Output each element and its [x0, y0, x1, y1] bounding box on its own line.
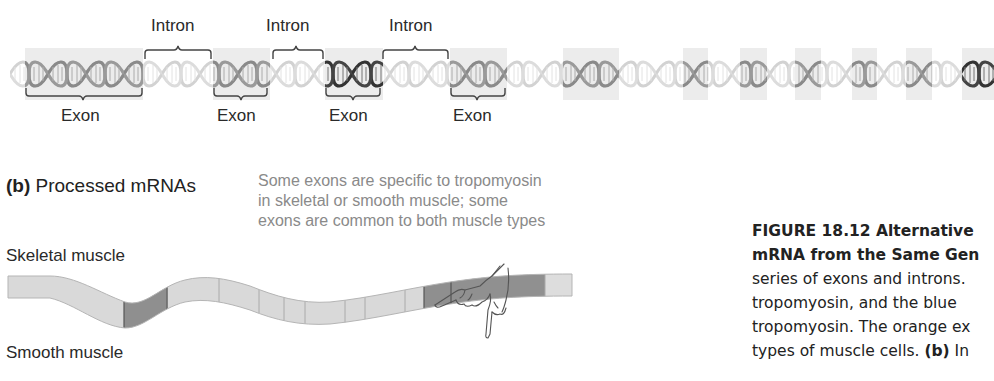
note-line: exons are common to both muscle types: [258, 211, 545, 231]
caption-body-line: tropomyosin. The orange ex: [752, 315, 979, 339]
caption-text: In: [950, 342, 969, 360]
note-line: Some exons are specific to tropomyosin: [258, 171, 545, 191]
exon-label: Exon: [217, 106, 256, 126]
intron-label: Intron: [151, 16, 194, 36]
figure-caption: FIGURE 18.12 Alternative mRNA from the S…: [752, 219, 979, 363]
panel-b-title: (b) Processed mRNAs: [6, 175, 196, 197]
caption-body-line: types of muscle cells. (b) In: [752, 339, 979, 363]
caption-panel-ref: (b): [924, 342, 949, 360]
intron-label: Intron: [266, 16, 309, 36]
panel-letter: (b): [6, 175, 30, 196]
caption-body-line: tropomyosin, and the blue: [752, 291, 979, 315]
intron-label: Intron: [389, 16, 432, 36]
exon-label: Exon: [453, 106, 492, 126]
note-line: in skeletal or smooth muscle; some: [258, 191, 545, 211]
panel-title: Processed mRNAs: [36, 175, 197, 196]
exon-label: Exon: [61, 106, 100, 126]
pointing-hands-icon: [430, 250, 530, 340]
caption-title-line: mRNA from the Same Gen: [752, 243, 979, 267]
caption-text: types of muscle cells.: [752, 342, 924, 360]
skeletal-mrna-ribbon: [0, 268, 680, 338]
caption-title-line: FIGURE 18.12 Alternative: [752, 219, 979, 243]
exon-label: Exon: [329, 106, 368, 126]
brace-annotations: [0, 0, 994, 140]
caption-body-line: series of exons and introns.: [752, 267, 979, 291]
skeletal-muscle-label: Skeletal muscle: [6, 246, 125, 266]
exon-note: Some exons are specific to tropomyosin i…: [258, 171, 545, 231]
smooth-muscle-label: Smooth muscle: [6, 343, 123, 363]
